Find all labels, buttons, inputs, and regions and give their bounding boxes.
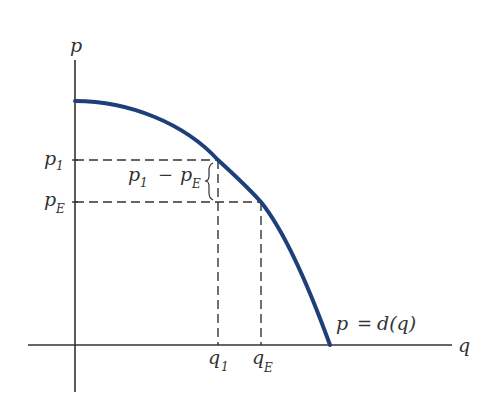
svg-text:p: p [128, 163, 140, 185]
svg-text:p: p [44, 147, 56, 169]
dashed-guides [75, 160, 261, 345]
svg-text:1: 1 [56, 159, 64, 173]
svg-text:E: E [191, 177, 201, 191]
svg-text:1: 1 [221, 360, 229, 374]
demand-diagram: p q p 1 p E p 1 − p E q 1 q E p = d(q) [0, 0, 491, 405]
p1-label: p 1 [44, 147, 64, 173]
svg-text:q: q [252, 346, 264, 368]
q1-label: q 1 [208, 346, 229, 374]
p1-minus-pE-label: p 1 − p E [128, 163, 201, 191]
y-axis-label: p [70, 34, 82, 56]
demand-curve [75, 101, 330, 345]
svg-text:q: q [208, 346, 220, 368]
curve-label: p = d(q) [336, 312, 416, 334]
svg-text:p: p [44, 188, 56, 210]
svg-text:E: E [263, 361, 273, 375]
svg-text:E: E [55, 202, 65, 216]
svg-text:=: = [357, 313, 372, 334]
svg-text:1: 1 [140, 176, 148, 190]
svg-text:p: p [180, 163, 192, 185]
difference-brace [205, 163, 213, 200]
svg-text:d(q): d(q) [377, 312, 416, 334]
svg-text:−: − [158, 164, 173, 185]
qE-label: q E [252, 346, 273, 375]
pE-label: p E [44, 188, 65, 216]
x-axis-label: q [458, 334, 470, 356]
svg-text:p: p [336, 312, 348, 334]
